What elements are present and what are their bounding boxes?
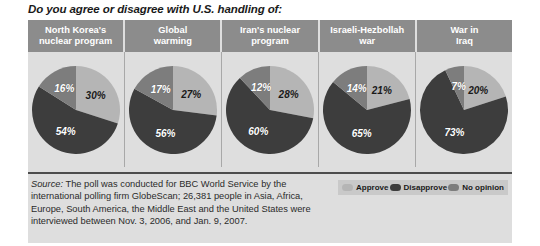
- chart-legend: Approve Disapprove No opinion: [338, 180, 508, 195]
- legend-swatch-no-opinion-icon: [448, 184, 459, 191]
- legend-swatch-approve-icon: [342, 184, 353, 191]
- pie-chart-war-in-iraq: 20%73%7%: [418, 64, 510, 156]
- disapprove-slice-label: 56%: [155, 127, 175, 138]
- disapprove-slice-label: 54%: [56, 126, 76, 137]
- no-opinion-slice-label: 16%: [54, 83, 74, 94]
- no-opinion-slice-label: 14%: [347, 82, 367, 93]
- header-line1: Global: [154, 25, 192, 37]
- pie-svg: [418, 64, 510, 156]
- pie-cell-israeli-hezbollah: 21%65%14%: [319, 52, 416, 167]
- no-opinion-slice-label: 17%: [151, 83, 171, 94]
- pie-chart-north-korea: 30%54%16%: [30, 64, 122, 156]
- pie-cell-global-warming: 27%56%17%: [125, 52, 222, 167]
- header-cell-iran-nuclear: Iran's nuclear program: [222, 20, 319, 52]
- approve-slice-label: 27%: [181, 88, 201, 99]
- category-header-row: North Korea's nuclear program Global war…: [28, 20, 512, 52]
- no-opinion-slice-label: 7%: [451, 80, 465, 91]
- chart-panel: North Korea's nuclear program Global war…: [28, 20, 512, 243]
- header-line2: warming: [154, 36, 192, 48]
- approve-slice-label: 20%: [468, 84, 488, 95]
- pie-chart-row: 30%54%16% 27%56%17% 28%60%12% 21%65%14% …: [28, 52, 512, 167]
- legend-label-no-opinion: No opinion: [462, 183, 504, 192]
- section-divider: [28, 172, 512, 174]
- pie-svg: [224, 64, 316, 156]
- pie-svg: [30, 64, 122, 156]
- header-line1: North Korea's: [39, 25, 112, 37]
- header-line2: nuclear program: [39, 36, 112, 48]
- disapprove-slice-label: 65%: [352, 128, 372, 139]
- header-line1: War in: [450, 25, 478, 37]
- source-label: Source:: [31, 179, 63, 189]
- header-cell-global-warming: Global warming: [125, 20, 222, 52]
- pie-svg: [321, 64, 413, 156]
- pie-chart-global-warming: 27%56%17%: [127, 64, 219, 156]
- approve-slice-label: 28%: [279, 89, 299, 100]
- pie-cell-war-in-iraq: 20%73%7%: [416, 52, 512, 167]
- disapprove-slice-label: 60%: [248, 125, 268, 136]
- approve-slice-label: 30%: [86, 90, 106, 101]
- legend-item-no-opinion: No opinion: [448, 183, 504, 192]
- disapprove-slice-label: 73%: [444, 126, 464, 137]
- pie-chart-iran-nuclear: 28%60%12%: [224, 64, 316, 156]
- source-text: The poll was conducted for BBC World Ser…: [31, 179, 311, 226]
- header-line2: Iraq: [450, 36, 478, 48]
- header-line2: program: [240, 36, 300, 48]
- header-cell-north-korea: North Korea's nuclear program: [28, 20, 125, 52]
- no-opinion-slice-label: 12%: [251, 82, 271, 93]
- header-cell-israeli-hezbollah: Israeli-Hezbollah war: [320, 20, 417, 52]
- pie-cell-north-korea: 30%54%16%: [28, 52, 125, 167]
- legend-label-disapprove: Disapprove: [404, 183, 448, 192]
- header-line2: war: [330, 36, 404, 48]
- pie-svg: [127, 64, 219, 156]
- approve-slice-label: 21%: [372, 85, 392, 96]
- pie-chart-israeli-hezbollah: 21%65%14%: [321, 64, 413, 156]
- legend-label-approve: Approve: [356, 183, 388, 192]
- page-title: Do you agree or disagree with U.S. handl…: [28, 3, 282, 15]
- poll-infographic: Do you agree or disagree with U.S. handl…: [0, 0, 540, 246]
- legend-item-disapprove: Disapprove: [390, 183, 448, 192]
- pie-cell-iran-nuclear: 28%60%12%: [222, 52, 319, 167]
- header-line1: Israeli-Hezbollah: [330, 25, 404, 37]
- legend-item-approve: Approve: [342, 183, 388, 192]
- source-note: Source: The poll was conducted for BBC W…: [31, 178, 331, 228]
- legend-swatch-disapprove-icon: [390, 184, 401, 191]
- header-line1: Iran's nuclear: [240, 25, 300, 37]
- header-cell-war-in-iraq: War in Iraq: [417, 20, 512, 52]
